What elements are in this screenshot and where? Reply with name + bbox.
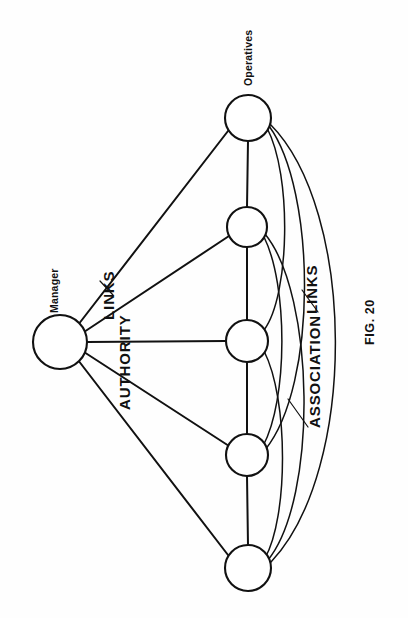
label-manager: Manager [49, 268, 60, 313]
node-operative-2[interactable] [227, 207, 267, 247]
label-links-authority: LINKS [101, 271, 116, 321]
label-operatives: Operatives [243, 30, 254, 86]
association-arc-op1-op4 [265, 126, 305, 450]
association-link-op1-op2 [247, 141, 248, 207]
authority-link-manager-op5 [78, 360, 228, 555]
node-operative-3[interactable] [226, 320, 268, 362]
figure-caption: FIG. 20 [364, 299, 377, 345]
association-arc-group [263, 124, 335, 562]
figure-canvas: Manager Operatives AUTHORITY LINKS ASSOC… [0, 0, 408, 618]
node-operative-5[interactable] [225, 545, 271, 591]
node-manager[interactable] [33, 315, 87, 369]
leader-association-links-lower [288, 399, 308, 427]
association-arc-op1-op5 [270, 124, 335, 562]
authority-link-manager-op3 [87, 341, 226, 342]
node-operative-1[interactable] [225, 95, 271, 141]
association-link-op4-op5 [247, 476, 248, 545]
authority-link-manager-op4 [84, 352, 229, 446]
figure-caption-text: FIG. 20 [363, 299, 377, 345]
association-arc-op2-op5 [265, 234, 304, 560]
node-operative-4[interactable] [226, 434, 268, 476]
node-group [33, 95, 271, 591]
authority-link-group [78, 131, 229, 555]
organisation-diagram [0, 0, 408, 618]
label-links-association: LINKS [304, 265, 319, 315]
label-association: ASSOCIATION [307, 315, 322, 428]
label-authority: AUTHORITY [117, 314, 132, 410]
